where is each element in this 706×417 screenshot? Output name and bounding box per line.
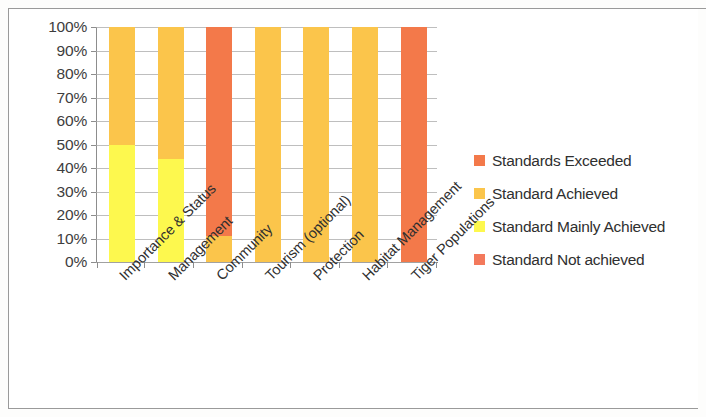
y-tick-mark xyxy=(91,215,96,216)
y-tick-mark xyxy=(91,74,96,75)
y-axis-tick-label: 30% xyxy=(57,182,87,200)
legend-swatch-icon xyxy=(474,155,485,166)
y-axis-tick-label: 90% xyxy=(57,41,87,59)
x-tick-mark xyxy=(97,262,98,268)
legend-item[interactable]: Standard Mainly Achieved xyxy=(474,210,689,243)
legend-swatch-icon xyxy=(474,254,485,265)
y-axis-tick-label: 100% xyxy=(48,18,87,36)
y-axis-tick-label: 20% xyxy=(57,206,87,224)
chart-screenshot: 0%10%20%30%40%50%60%70%80%90%100% Standa… xyxy=(0,0,706,417)
y-axis-tick-label: 80% xyxy=(57,65,87,83)
y-axis-tick-label: 60% xyxy=(57,112,87,130)
y-axis-tick-label: 10% xyxy=(57,229,87,247)
y-tick-mark xyxy=(91,51,96,52)
legend-item-label: Standard Not achieved xyxy=(492,251,644,269)
y-tick-mark xyxy=(91,168,96,169)
legend-item-label: Standards Exceeded xyxy=(492,152,631,170)
legend-item[interactable]: Standards Exceeded xyxy=(474,144,689,177)
y-tick-mark xyxy=(91,262,96,263)
y-tick-mark xyxy=(91,145,96,146)
y-tick-mark xyxy=(91,98,96,99)
y-tick-mark xyxy=(91,121,96,122)
legend-item-label: Standard Achieved xyxy=(492,185,618,203)
bar-segment[interactable] xyxy=(206,27,232,236)
y-axis-tick-label: 40% xyxy=(57,159,87,177)
y-tick-mark xyxy=(91,192,96,193)
bar-segment[interactable] xyxy=(109,27,135,145)
bar-segment[interactable] xyxy=(109,145,135,263)
chart-legend: Standards ExceededStandard AchievedStand… xyxy=(474,144,689,276)
y-tick-mark xyxy=(91,27,96,28)
legend-item-label: Standard Mainly Achieved xyxy=(492,218,665,236)
legend-item[interactable]: Standard Not achieved xyxy=(474,243,689,276)
bar-column[interactable] xyxy=(109,27,135,262)
y-axis-tick-label: 0% xyxy=(65,253,87,271)
bar-segment[interactable] xyxy=(158,27,184,159)
y-axis-tick-label: 50% xyxy=(57,135,87,153)
y-tick-mark xyxy=(91,239,96,240)
legend-item[interactable]: Standard Achieved xyxy=(474,177,689,210)
y-axis-tick-label: 70% xyxy=(57,88,87,106)
